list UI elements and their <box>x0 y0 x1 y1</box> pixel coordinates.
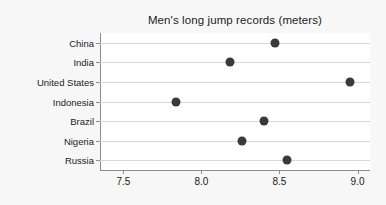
x-tick-label-8.0: 8.0 <box>194 176 208 187</box>
chart-title: Men's long jump records (meters) <box>100 14 370 26</box>
x-tick-label-8.5: 8.5 <box>273 176 287 187</box>
data-point-united-states <box>345 77 354 86</box>
gridline-horizontal <box>100 121 370 122</box>
y-tick-mark <box>96 141 100 142</box>
data-point-russia <box>283 156 292 165</box>
gridline-horizontal <box>100 62 370 63</box>
y-tick-label-brazil: Brazil <box>70 116 94 127</box>
dot-plot-chart: Men's long jump records (meters) 7.58.08… <box>0 0 386 205</box>
y-tick-mark <box>96 102 100 103</box>
y-tick-mark <box>96 82 100 83</box>
data-point-nigeria <box>238 136 247 145</box>
x-axis-line <box>100 170 370 171</box>
data-point-brazil <box>259 117 268 126</box>
x-tick-mark <box>123 170 124 174</box>
plot-overlay: 7.58.08.59.0 <box>100 33 370 170</box>
gridline-horizontal <box>100 82 370 83</box>
x-tick-mark <box>358 170 359 174</box>
data-point-india <box>225 58 234 67</box>
gridline-horizontal <box>100 102 370 103</box>
data-point-china <box>270 38 279 47</box>
y-tick-mark <box>96 160 100 161</box>
y-tick-label-russia: Russia <box>65 155 94 166</box>
gridline-horizontal <box>100 141 370 142</box>
gridline-horizontal <box>100 160 370 161</box>
y-tick-label-china: China <box>69 37 94 48</box>
x-tick-label-7.5: 7.5 <box>116 176 130 187</box>
y-tick-mark <box>96 43 100 44</box>
x-tick-mark <box>201 170 202 174</box>
x-tick-label-9.0: 9.0 <box>351 176 365 187</box>
gridline-horizontal <box>100 43 370 44</box>
y-tick-mark <box>96 121 100 122</box>
y-tick-label-nigeria: Nigeria <box>64 135 94 146</box>
y-tick-mark <box>96 62 100 63</box>
x-tick-mark <box>279 170 280 174</box>
y-tick-label-united-states: United States <box>37 76 94 87</box>
y-tick-label-indonesia: Indonesia <box>53 96 94 107</box>
y-tick-label-india: India <box>73 57 94 68</box>
data-point-indonesia <box>172 97 181 106</box>
